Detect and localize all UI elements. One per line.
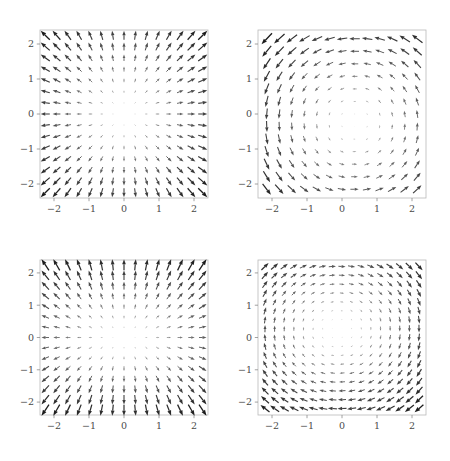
y-tick-label: −1 [238, 143, 252, 154]
vector-arrow-shaft [178, 376, 181, 379]
vector-arrow-head [386, 407, 391, 411]
vector-arrow-head [41, 135, 46, 138]
vector-arrow-shaft [45, 296, 49, 299]
vector-arrow-head [263, 64, 267, 69]
vector-arrow-head [328, 398, 332, 401]
vector-arrow-shaft [392, 64, 396, 67]
vector-arrow-head [273, 334, 276, 338]
vector-arrow-shaft [361, 363, 363, 364]
vector-arrow-shaft [178, 275, 181, 280]
vector-arrow-shaft [102, 156, 103, 158]
vector-arrow-head [273, 361, 276, 365]
vector-arrow-head [111, 193, 114, 198]
vector-arrow-shaft [90, 307, 91, 309]
vector-arrow-head [156, 31, 160, 36]
vector-arrow-head [303, 101, 306, 105]
vector-arrow-shaft [45, 405, 49, 411]
vector-arrow-head [415, 85, 418, 89]
vector-arrow-shaft [304, 61, 308, 64]
vector-arrow-head [290, 88, 293, 92]
vector-arrow-head [398, 354, 401, 358]
vector-arrow-shaft [145, 47, 146, 51]
vector-arrow-shaft [282, 284, 284, 286]
vector-arrow-shaft [340, 151, 342, 152]
vector-arrow-head [203, 336, 207, 339]
vector-arrow-head [53, 158, 58, 162]
vector-arrow-head [123, 90, 124, 91]
vector-arrow-head [417, 301, 420, 306]
vector-arrow-shaft [390, 371, 392, 373]
vector-arrow-shaft [358, 274, 361, 275]
vector-arrow-shaft [79, 296, 81, 299]
vector-arrow-shaft [57, 135, 61, 136]
vector-arrow-shaft [398, 299, 399, 302]
vector-arrow-shaft [294, 355, 295, 357]
vector-arrow-shaft [188, 317, 191, 318]
vector-arrow-shaft [317, 99, 318, 101]
vector-arrow-shaft [68, 35, 71, 40]
vector-arrow-shaft [145, 385, 146, 389]
vector-arrow-head [377, 75, 381, 78]
vector-arrow-head [122, 282, 125, 286]
vector-arrow-shaft [166, 46, 169, 50]
vector-arrow-head [134, 400, 137, 405]
vector-arrow-head [370, 274, 374, 277]
quiver-svg: −2−1012−2−1012 [232, 258, 440, 439]
vector-arrow-head [134, 66, 136, 69]
vector-arrow-shaft [313, 320, 314, 321]
vector-arrow-shaft [45, 357, 49, 359]
vector-arrow-head [418, 354, 421, 359]
chart-panel-top-left: −2−1012−2−1012 [14, 28, 222, 222]
vector-arrow-head [264, 334, 267, 338]
vector-arrow-head [135, 315, 136, 317]
vector-arrow-head [111, 389, 114, 393]
vector-arrow-head [341, 346, 342, 347]
vector-arrow-head [391, 112, 393, 115]
vector-arrow-head [88, 181, 91, 186]
vector-arrow-head [283, 317, 285, 320]
vector-arrow-shaft [56, 35, 60, 40]
vector-arrow-head [100, 43, 103, 48]
vector-arrow-head [134, 304, 136, 307]
vector-arrow-head [389, 354, 392, 357]
vector-arrow-shaft [329, 37, 335, 39]
vector-arrow-shaft [265, 365, 267, 368]
x-tick-label: 1 [156, 203, 162, 214]
vector-arrow-shaft [68, 46, 71, 50]
vector-arrow-head [145, 293, 148, 297]
vector-arrow-shaft [145, 405, 146, 411]
vector-arrow-shaft [113, 286, 114, 290]
vector-arrow-shaft [314, 162, 316, 164]
vector-arrow-head [191, 146, 196, 149]
vector-arrow-head [407, 363, 411, 368]
vector-arrow-head [145, 389, 148, 394]
vector-arrow-head [362, 37, 367, 40]
vector-arrow-head [350, 355, 352, 356]
vector-arrow-shaft [166, 178, 169, 182]
vector-arrow-shaft [113, 156, 114, 158]
vector-arrow-shaft [145, 357, 146, 358]
vector-arrow-shaft [167, 395, 169, 400]
vector-arrow-shaft [388, 282, 390, 284]
vector-arrow-shaft [188, 156, 192, 159]
vector-arrow-shaft [45, 146, 50, 148]
vector-arrow-shaft [319, 267, 322, 268]
vector-arrow-head [146, 113, 147, 114]
vector-arrow-shaft [156, 264, 158, 270]
vector-arrow-head [65, 270, 69, 275]
vector-arrow-shaft [275, 382, 278, 385]
vector-arrow-head [191, 90, 196, 93]
vector-arrow-head [303, 138, 306, 142]
vector-arrow-shaft [166, 69, 168, 71]
vector-arrow-head [278, 127, 281, 131]
vector-arrow-head [145, 368, 147, 371]
vector-arrow-shaft [282, 293, 284, 295]
vector-arrow-head [180, 347, 183, 349]
vector-arrow-shaft [313, 364, 315, 365]
vector-arrow-head [398, 319, 400, 322]
vector-arrow-shaft [45, 125, 50, 126]
vector-arrow-head [169, 337, 171, 339]
vector-arrow-shaft [404, 63, 408, 67]
vector-arrow-head [41, 158, 46, 162]
vector-arrow-shaft [281, 276, 284, 278]
